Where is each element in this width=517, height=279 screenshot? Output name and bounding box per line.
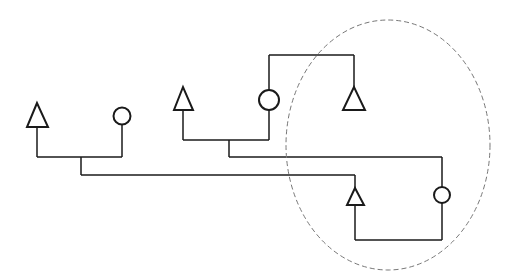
circle-node-icon — [114, 108, 131, 125]
circle-node-icon — [434, 187, 450, 203]
circle-node-icon — [259, 90, 279, 110]
tree-diagram — [0, 0, 517, 279]
group-ellipse — [286, 20, 490, 270]
triangle-node-icon — [27, 103, 48, 127]
triangle-node-icon — [174, 87, 193, 110]
triangle-node-icon — [347, 188, 364, 205]
triangle-node-icon — [343, 87, 365, 110]
